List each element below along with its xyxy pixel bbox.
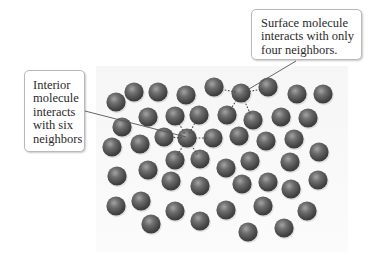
molecule: [297, 201, 316, 220]
molecule: [271, 107, 290, 126]
molecule: [258, 77, 277, 96]
callout-text-line: interacts: [33, 106, 84, 119]
molecule-diagram: Interior molecule interacts with six nei…: [0, 0, 368, 258]
molecule: [232, 174, 251, 193]
callout-text-line: interacts with only: [261, 30, 361, 43]
callout-text-line: neighbors: [33, 133, 84, 146]
molecule: [313, 84, 332, 103]
molecule: [217, 105, 236, 124]
molecule: [216, 200, 235, 219]
molecule: [130, 134, 149, 153]
molecule: [256, 131, 275, 150]
callout-text-line: with six: [33, 119, 84, 132]
molecule: [138, 107, 157, 126]
molecule: [138, 160, 157, 179]
molecule: [148, 82, 167, 101]
molecule: [190, 211, 209, 230]
molecule: [190, 176, 209, 195]
callout-text-line: Interior: [33, 79, 84, 92]
molecule: [106, 196, 125, 215]
surface-molecule: [231, 83, 250, 102]
molecule: [107, 166, 126, 185]
molecule: [106, 92, 125, 111]
callout-text-line: molecule: [33, 92, 84, 105]
molecule: [204, 77, 223, 96]
molecule: [102, 137, 121, 156]
surface-molecule-callout: Surface molecule interacts with only fou…: [251, 9, 362, 60]
molecule: [308, 170, 327, 189]
molecule: [165, 106, 184, 125]
molecule: [240, 151, 259, 170]
molecule: [141, 214, 160, 233]
molecule: [190, 149, 209, 168]
interior-molecule-callout: Interior molecule interacts with six nei…: [24, 70, 85, 152]
molecule: [287, 84, 306, 103]
molecule: [229, 126, 248, 145]
molecule: [124, 82, 143, 101]
molecule: [274, 218, 293, 237]
molecules-group: [102, 77, 333, 243]
molecule: [280, 152, 299, 171]
molecule: [131, 191, 150, 210]
molecule: [281, 179, 300, 198]
molecule: [284, 129, 303, 148]
molecule: [253, 196, 272, 215]
molecule: [258, 172, 277, 191]
callout-text-line: four neighbors.: [261, 44, 361, 57]
callout-text-line: Surface molecule: [261, 17, 361, 30]
molecule: [216, 158, 235, 177]
molecule: [243, 110, 262, 129]
molecule: [189, 105, 208, 124]
molecule: [165, 150, 184, 169]
molecule: [298, 108, 317, 127]
molecule: [238, 222, 257, 241]
molecule: [165, 201, 184, 220]
molecule: [161, 171, 180, 190]
molecule: [176, 85, 195, 104]
molecule: [309, 142, 328, 161]
